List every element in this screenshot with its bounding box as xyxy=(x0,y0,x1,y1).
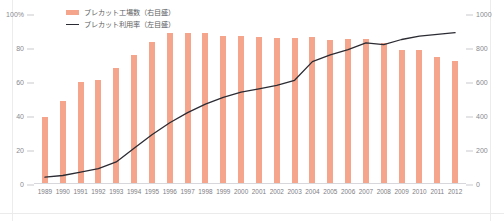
x-axis-tick-label: 2005 xyxy=(323,188,337,195)
x-axis-tick-label: 2009 xyxy=(394,188,408,195)
x-axis-tick-label: 1992 xyxy=(91,188,105,195)
left-axis-tick: 40 xyxy=(16,113,36,120)
x-axis-tick-label: 2010 xyxy=(412,188,426,195)
x-axis-tick-label: 2002 xyxy=(270,188,284,195)
x-axis-tick-label: 1999 xyxy=(216,188,230,195)
plot-area: 100%806040200 10008006004002000 xyxy=(36,14,464,184)
line-series xyxy=(36,14,464,184)
x-axis-tick-label: 2011 xyxy=(430,188,444,195)
left-axis-tick: 0 xyxy=(20,181,36,188)
frame-left-border xyxy=(12,0,13,221)
utilization-line xyxy=(45,33,455,178)
right-axis-tick: 800 xyxy=(464,45,488,52)
x-axis-tick-label: 2007 xyxy=(359,188,373,195)
x-axis-tick-label: 1989 xyxy=(38,188,52,195)
chart-page: プレカット工場数（右目盛） プレカット利用率（左目盛） 100%80604020… xyxy=(0,0,504,221)
x-axis-tick-label: 2001 xyxy=(252,188,266,195)
x-axis-tick-label: 1995 xyxy=(145,188,159,195)
right-axis-tick: 400 xyxy=(464,113,488,120)
x-axis-tick-label: 2012 xyxy=(448,188,462,195)
right-axis-tick: 600 xyxy=(464,79,488,86)
right-axis-tick: 1000 xyxy=(464,11,492,18)
x-axis-labels: 1989199019911992199319941995199619971998… xyxy=(36,188,464,200)
x-axis-tick-label: 2003 xyxy=(287,188,301,195)
right-axis-tick: 200 xyxy=(464,147,488,154)
x-axis-tick-label: 2006 xyxy=(341,188,355,195)
x-axis-tick-label: 1998 xyxy=(198,188,212,195)
x-axis-tick-label: 1993 xyxy=(109,188,123,195)
right-axis-tick: 0 xyxy=(464,181,480,188)
frame-right-border xyxy=(490,0,491,221)
x-axis-tick-label: 1996 xyxy=(163,188,177,195)
left-axis-tick: 60 xyxy=(16,79,36,86)
left-axis-tick: 20 xyxy=(16,147,36,154)
frame-bottom-border xyxy=(0,213,504,214)
x-axis-tick-label: 1997 xyxy=(180,188,194,195)
x-axis-tick-label: 2000 xyxy=(234,188,248,195)
x-axis-tick-label: 1991 xyxy=(73,188,87,195)
x-axis-tick-label: 1990 xyxy=(56,188,70,195)
x-axis-tick-label: 2008 xyxy=(377,188,391,195)
x-axis-tick-label: 1994 xyxy=(127,188,141,195)
left-axis-tick: 100% xyxy=(6,11,36,18)
x-axis-tick-label: 2004 xyxy=(305,188,319,195)
left-axis-tick: 80 xyxy=(16,45,36,52)
